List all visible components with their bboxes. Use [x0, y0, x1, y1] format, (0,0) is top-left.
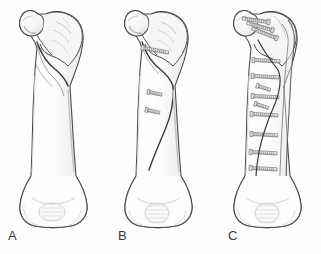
panel-label-c: C: [228, 228, 237, 243]
panel-c: C: [228, 11, 301, 243]
femoral-head-a: [20, 11, 44, 36]
femur-fixation-figure: A: [0, 0, 321, 254]
panel-a: A: [8, 11, 87, 243]
femoral-head-b: [125, 11, 149, 36]
figure-canvas: A: [0, 0, 321, 254]
panel-label-a: A: [8, 228, 17, 243]
panel-label-b: B: [118, 228, 127, 243]
distal-condyles-b: [125, 176, 192, 228]
distal-condyles-c: [234, 176, 301, 228]
distal-condyles-a: [20, 176, 87, 228]
panel-b: B: [118, 11, 192, 243]
